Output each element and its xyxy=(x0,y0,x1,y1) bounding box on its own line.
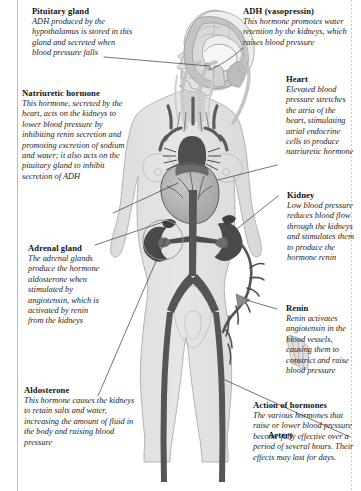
callout-pituitary-gland: Pituitary gland ADH produced by the hypo… xyxy=(32,6,136,59)
callout-adh-vasopressin: ADH (vasopressin) This hormone promotes … xyxy=(243,6,347,48)
callout-kidney-body: Low blood pressure reduces blood flow th… xyxy=(287,201,357,263)
callout-kidney-heading: Kidney xyxy=(287,190,357,200)
callout-adrenal-heading: Adrenal gland xyxy=(28,243,100,253)
descending-aorta xyxy=(189,190,197,276)
callout-artery-label: Artery xyxy=(268,430,293,440)
callout-heart-body: Elevated blood pressure stretches the at… xyxy=(286,85,356,158)
callout-adrenal-gland: Adrenal gland The adrenal glands produce… xyxy=(28,243,100,327)
callout-adh-heading: ADH (vasopressin) xyxy=(243,6,347,16)
callout-aldosterone: Aldosterone This hormone causes the kidn… xyxy=(24,385,140,448)
callout-pituitary-body: ADH produced by the hypothalamus is stor… xyxy=(32,17,136,59)
callout-natriuretic-heading: Natriuretic hormone xyxy=(22,88,134,98)
callout-heart-heading: Heart xyxy=(286,74,356,84)
callout-heart: Heart Elevated blood pressure stretches … xyxy=(286,74,356,158)
callout-pituitary-heading: Pituitary gland xyxy=(32,6,136,16)
body-silhouette xyxy=(111,10,309,462)
callout-adh-body: This hormone promotes water retention by… xyxy=(243,17,347,48)
callout-renin: Renin Renin activates angiotensin in the… xyxy=(286,303,357,376)
callout-natriuretic-hormone: Natriuretic hormone This hormone, secret… xyxy=(22,88,134,182)
callout-kidney: Kidney Low blood pressure reduces blood … xyxy=(287,190,357,263)
callout-aldosterone-heading: Aldosterone xyxy=(24,385,140,395)
callout-renin-body: Renin activates angiotensin in the blood… xyxy=(286,314,357,376)
callout-aldosterone-body: This hormone causes the kidneys to retai… xyxy=(24,396,140,448)
callout-renin-heading: Renin xyxy=(286,303,357,313)
callout-adrenal-body: The adrenal glands produce the hormone a… xyxy=(28,254,100,327)
callout-action-heading: Action of hormones xyxy=(253,400,357,410)
leader-renin xyxy=(246,300,277,309)
diagram-page: Pituitary gland ADH produced by the hypo… xyxy=(0,0,361,491)
callout-natriuretic-body: This hormone, secreted by the heart, act… xyxy=(22,99,134,182)
